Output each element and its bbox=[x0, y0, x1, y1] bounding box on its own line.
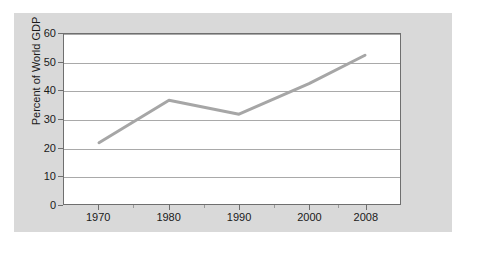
x-axis-tick-label: 2008 bbox=[354, 211, 378, 223]
x-axis-minor-tick-mark bbox=[133, 205, 134, 208]
x-axis-tick-label: 1990 bbox=[227, 211, 251, 223]
y-axis-tick-label: 40 bbox=[44, 84, 56, 96]
y-axis-tick-label: 60 bbox=[44, 27, 56, 39]
y-axis-tick-label: 0 bbox=[50, 199, 56, 211]
x-axis-minor-tick-mark bbox=[204, 205, 205, 208]
y-axis-tick-labels: 0102030405060 bbox=[28, 33, 56, 205]
x-axis-tick-mark bbox=[309, 205, 310, 210]
x-axis-minor-tick-mark bbox=[274, 205, 275, 208]
y-axis-tick-label: 50 bbox=[44, 56, 56, 68]
x-axis-tick-label: 2000 bbox=[297, 211, 321, 223]
y-axis-tick-label: 30 bbox=[44, 113, 56, 125]
x-axis-tick-mark bbox=[366, 205, 367, 210]
x-axis-tick-label: 1980 bbox=[156, 211, 180, 223]
series-polyline bbox=[99, 55, 365, 143]
x-axis-tick-labels: 19701980199020002008 bbox=[63, 211, 401, 227]
line-series bbox=[64, 34, 400, 204]
x-axis-tick-mark bbox=[239, 205, 240, 210]
x-axis-tick-mark bbox=[98, 205, 99, 210]
x-axis-minor-tick-mark bbox=[338, 205, 339, 208]
x-axis-tick-mark bbox=[169, 205, 170, 210]
plot-area bbox=[63, 33, 401, 205]
y-axis-tick-label: 10 bbox=[44, 170, 56, 182]
x-axis-tick-label: 1970 bbox=[86, 211, 110, 223]
chart-figure: Percent of World GDP 0102030405060 19701… bbox=[14, 13, 452, 232]
y-axis-tick-label: 20 bbox=[44, 142, 56, 154]
